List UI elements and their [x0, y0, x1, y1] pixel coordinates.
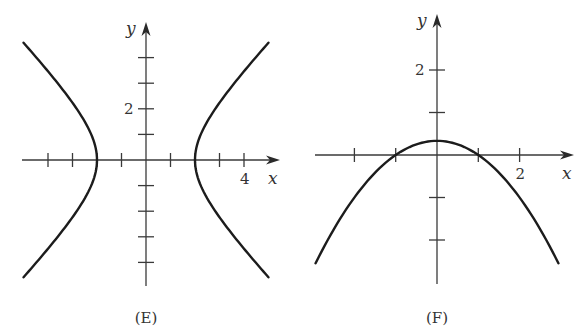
graph-e-x-tick-label: 4 [240, 170, 250, 188]
figure-canvas: x y 4 2 (E) x y 2 2 (F) [0, 0, 579, 332]
graph-e-y-axis-label: y [125, 18, 136, 38]
graph-f-caption: (F) [426, 309, 448, 327]
graph-f-parabola: x y 2 2 (F) [315, 10, 574, 327]
graph-e-hyperbola: x y 4 2 (E) [22, 18, 280, 327]
graph-f-y-tick-label: 2 [415, 61, 425, 79]
graph-f-y-axis-label: y [416, 10, 427, 30]
graph-e-y-tick-label: 2 [124, 100, 134, 118]
graph-f-x-tick-label: 2 [516, 165, 526, 183]
graph-e-caption: (E) [135, 309, 158, 327]
graph-e-x-axis-label: x [268, 168, 278, 188]
graph-f-x-axis-label: x [562, 163, 572, 183]
